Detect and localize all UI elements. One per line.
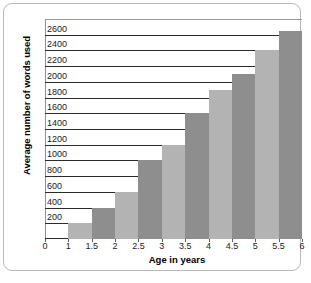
x-tick-label: 2	[103, 241, 127, 251]
x-axis-title: Age in years	[48, 254, 306, 265]
x-tick-label: 1.5	[80, 241, 104, 251]
y-tick-label: 600	[47, 181, 62, 191]
y-axis-title: Average number of words used	[21, 21, 32, 191]
x-tick-label: 5	[243, 241, 267, 251]
bar-5.5	[255, 50, 278, 239]
y-tick-label: 1800	[47, 87, 67, 97]
y-tick-label: 2600	[47, 24, 67, 34]
y-tick-label: 1000	[47, 149, 67, 159]
x-tick-label: 5.5	[267, 241, 291, 251]
y-tick-label: 1200	[47, 134, 67, 144]
y-tick-label: 400	[47, 197, 62, 207]
bar-6	[279, 31, 302, 239]
x-tick-label: 4	[197, 241, 221, 251]
y-tick-label: 2400	[47, 39, 67, 49]
x-tick-label: 3	[150, 241, 174, 251]
bar-2.5	[115, 192, 138, 239]
y-tick-label: 2000	[47, 71, 67, 81]
bar-2	[92, 208, 115, 239]
y-tick-label: 1400	[47, 118, 67, 128]
y-tick-label: 2200	[47, 55, 67, 65]
y-tick-label: 200	[47, 212, 62, 222]
x-tick-label: 6	[290, 241, 311, 251]
bar-4.5	[209, 90, 232, 239]
bar-3	[138, 160, 161, 239]
x-tick-label: 4.5	[220, 241, 244, 251]
x-tick-label: 2.5	[126, 241, 150, 251]
figure-frame: Average number of words used 20040060080…	[3, 3, 301, 271]
plot-inner: 2004006008001000120014001600180020002200…	[45, 19, 302, 239]
y-tick-label: 1600	[47, 102, 67, 112]
bar-1.5	[68, 223, 91, 239]
gridline	[45, 35, 302, 36]
bar-5	[232, 74, 255, 239]
y-tick-label: 800	[47, 165, 62, 175]
x-tick-label: 0	[33, 241, 57, 251]
plot-top-rule	[45, 19, 302, 20]
x-tick-label: 3.5	[173, 241, 197, 251]
bar-3.5	[162, 145, 185, 239]
bar-4	[185, 113, 208, 239]
plot-area: 2004006008001000120014001600180020002200…	[45, 19, 302, 239]
x-tick-label: 1	[56, 241, 80, 251]
